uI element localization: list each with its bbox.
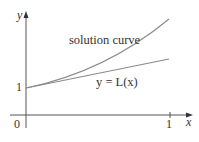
tangent-line-label: y = L(x) xyxy=(96,76,138,89)
y-axis-label: y xyxy=(17,9,22,21)
y-axis-arrow-icon xyxy=(24,11,29,18)
origin-label: 0 xyxy=(14,118,20,130)
solution-curve-label: solution curve xyxy=(69,34,140,47)
y-tick-label-1: 1 xyxy=(16,81,22,93)
x-tick-label-1: 1 xyxy=(166,118,172,130)
x-axis-label: x xyxy=(186,116,191,128)
